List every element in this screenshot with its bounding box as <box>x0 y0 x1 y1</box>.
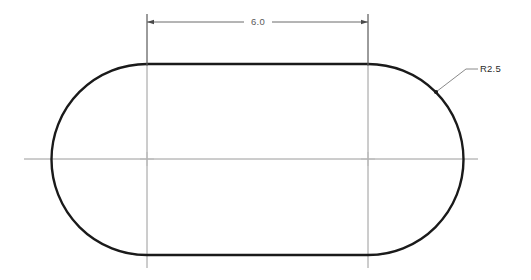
radius-leader-line <box>436 69 478 92</box>
radius-callout-r2-5: R2.5 <box>434 63 501 94</box>
dimension-label-length: 6.0 <box>251 16 265 27</box>
center-mark-left <box>140 152 154 166</box>
drawing-svg: 6.0 R2.5 <box>0 0 531 280</box>
radius-label: R2.5 <box>480 63 501 74</box>
centerlines-group <box>24 14 478 268</box>
dimension-arrowhead-right <box>361 20 368 24</box>
technical-drawing-canvas: 6.0 R2.5 <box>0 0 531 280</box>
center-mark-right <box>361 152 375 166</box>
linear-dimension-6-0: 6.0 <box>147 14 368 66</box>
dimension-arrowhead-left <box>147 20 154 24</box>
radius-leader-dot <box>434 90 438 94</box>
